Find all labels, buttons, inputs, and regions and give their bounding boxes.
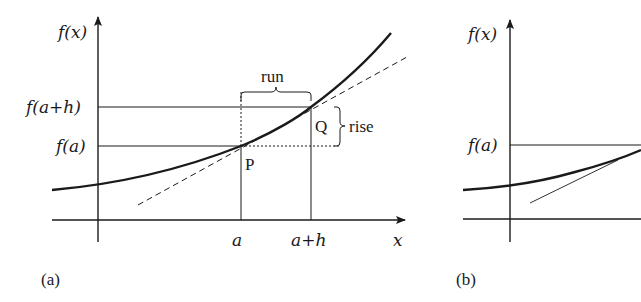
rise-label: rise — [349, 117, 374, 136]
panel-b: f(x) f(a) (b) — [456, 20, 641, 289]
y-tick-f-a: f(a) — [54, 136, 86, 156]
run-brace — [241, 87, 311, 101]
panel-a: f(x) x f(a+h) f(a) a a+h P Q run rise (a… — [24, 17, 407, 289]
y-tick-f-a-plus-h: f(a+h) — [24, 97, 81, 117]
run-label: run — [261, 67, 284, 86]
derivative-diagram: f(x) x f(a+h) f(a) a a+h P Q run rise (a… — [0, 0, 641, 302]
point-q-label: Q — [315, 117, 327, 136]
x-axis-label: x — [393, 230, 403, 250]
point-p-label: P — [245, 155, 254, 174]
panel-a-caption: (a) — [41, 270, 60, 289]
y-tick-f-a-b: f(a) — [466, 135, 498, 155]
y-axis-label: f(x) — [56, 22, 87, 42]
x-tick-a-plus-h: a+h — [291, 230, 326, 250]
tangent-line-b — [530, 160, 618, 203]
rise-brace — [334, 107, 345, 146]
function-curve-b — [463, 150, 641, 190]
panel-b-caption: (b) — [456, 270, 476, 289]
x-tick-a: a — [232, 230, 242, 250]
y-axis-label-b: f(x) — [466, 24, 497, 44]
